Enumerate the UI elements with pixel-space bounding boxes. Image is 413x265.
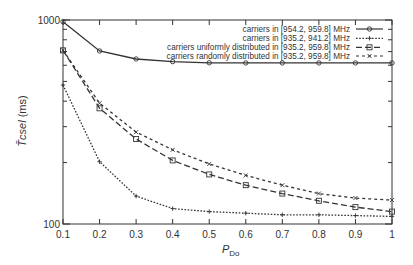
- legend-label: carriers in [935.2, 941.2] MHz: [243, 34, 350, 43]
- x-tick-label: 0.6: [239, 229, 253, 240]
- series-square-dashed: [61, 48, 395, 214]
- series-plus-dotted: [61, 83, 394, 219]
- x-tick-label: 1: [389, 229, 395, 240]
- legend-label: carriers in [954.2, 959.8] MHz: [243, 25, 350, 34]
- series-x-short-dashed: [61, 48, 394, 202]
- legend-item: carriers in [954.2, 959.8] MHz: [243, 25, 383, 34]
- x-axis-label-subscript: Do: [229, 249, 240, 258]
- x-tick-label: 0.7: [275, 229, 289, 240]
- x-tick-label: 0.8: [312, 229, 326, 240]
- legend-item: carriers uniformly distributed in [935.2…: [167, 43, 383, 52]
- x-tick-label: 0.3: [129, 229, 143, 240]
- legend-item: carriers in [935.2, 941.2] MHz: [243, 34, 383, 43]
- y-axis-label-symbol: T̄csel: [16, 120, 28, 147]
- x-tick-label: 0.4: [166, 229, 180, 240]
- y-tick-label: 100: [43, 219, 60, 230]
- y-axis-label: T̄csel(ms): [16, 95, 28, 146]
- legend-label: carriers uniformly distributed in [935.2…: [167, 43, 350, 52]
- chart: 0.10.20.30.40.50.60.70.80.911001000 carr…: [0, 0, 413, 265]
- x-tick-label: 0.9: [348, 229, 362, 240]
- y-tick-label: 1000: [38, 15, 61, 26]
- x-axis-label: PDo: [222, 243, 240, 258]
- legend: carriers in [954.2, 959.8] MHzcarriers i…: [167, 25, 383, 61]
- legend-item: carriers randomly distributed in [935.2,…: [167, 52, 383, 61]
- x-tick-label: 0.5: [202, 229, 216, 240]
- legend-label: carriers randomly distributed in [935.2,…: [167, 52, 350, 61]
- y-axis-label-unit: (ms): [16, 95, 28, 117]
- x-tick-label: 0.1: [56, 229, 70, 240]
- svg-text:T̄csel(ms): T̄csel(ms): [16, 95, 28, 146]
- x-tick-label: 0.2: [93, 229, 107, 240]
